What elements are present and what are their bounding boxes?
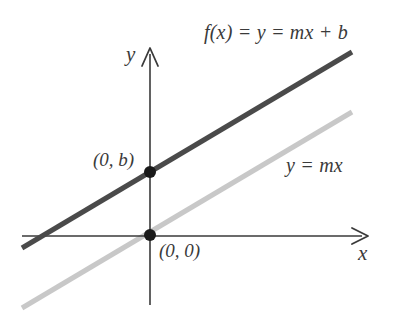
equation-label-mx-plus-b: f(x) = y = mx + b — [204, 22, 348, 42]
line-f-of-x-mx-plus-b — [22, 52, 352, 248]
point-label-origin: (0, 0) — [159, 241, 200, 260]
axis-label-y: y — [126, 44, 135, 65]
line-y-equals-mx — [22, 112, 352, 308]
point-label-y-intercept: (0, b) — [93, 150, 134, 169]
equation-label-mx: y = mx — [286, 155, 343, 175]
linear-function-figure: f(x) = y = mx + b y = mx (0, b) (0, 0) y… — [0, 0, 403, 320]
point-y-intercept-dot — [144, 166, 156, 178]
point-origin-dot — [144, 229, 156, 241]
axis-label-x: x — [358, 243, 367, 264]
